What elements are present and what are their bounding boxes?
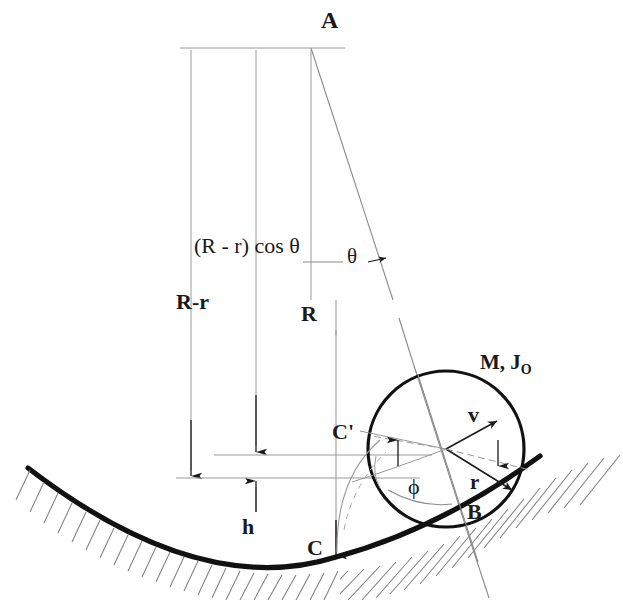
label-chord-projection: (R - r) cos θ <box>194 235 300 257</box>
horizontal-reference-lines <box>176 455 432 478</box>
label-mass-inertia-main: M, J <box>480 350 521 374</box>
label-swing-angle-theta: θ <box>347 246 357 267</box>
trough-surface-curve <box>28 456 540 568</box>
diagram-vector-layer <box>0 0 623 600</box>
theta-angle-indicator <box>303 258 386 262</box>
rolling-path-arc-C-to-Cprime <box>337 440 386 552</box>
line-A-to-contact <box>311 48 489 598</box>
label-contact-point-B: B <box>467 501 482 523</box>
label-mass-inertia: M, JO <box>480 352 532 377</box>
ground-hatching-left <box>16 470 338 600</box>
label-height-h: h <box>242 516 254 538</box>
label-trough-radius: R <box>301 303 317 325</box>
ray-to-c-prime <box>352 431 530 482</box>
label-apex-A: A <box>321 8 338 32</box>
label-c-prime: C' <box>332 421 354 443</box>
dimension-extension-lines <box>191 50 311 512</box>
label-roll-angle-phi: ϕ <box>408 476 420 498</box>
label-velocity-v: v <box>468 404 479 426</box>
label-cylinder-radius-r: r <box>470 472 479 493</box>
label-radius-difference: R-r <box>176 291 209 313</box>
diagram-canvas: A (R - r) cos θ R-r R θ M, JO v r ϕ B C'… <box>0 0 623 600</box>
label-trough-bottom-C: C <box>307 537 323 559</box>
label-mass-inertia-subscript: O <box>521 362 532 377</box>
